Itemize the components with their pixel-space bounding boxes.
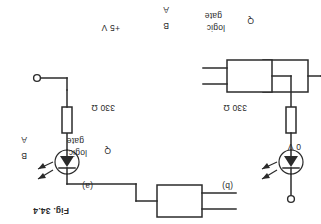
- led-light-arrowhead-2-a: [262, 163, 270, 169]
- resistor-value-label-a: 330 Ω: [91, 103, 115, 113]
- circuit-a-body: [203, 60, 303, 202]
- resistor-value-label-b: 330 Ω: [223, 103, 247, 113]
- gate-output-q-label-b: Q: [247, 16, 254, 26]
- gate-text-line1-a: logic: [69, 148, 87, 158]
- gate-input-b-label-a: B: [21, 151, 27, 161]
- resistor-body-a[interactable]: [286, 107, 296, 133]
- gate-input-b-label-b: B: [163, 21, 169, 31]
- circuit-a-drawing-layer: [0, 0, 321, 224]
- gate-input-a-label-b: A: [163, 5, 169, 15]
- supply-terminal-label-0v: 0 V: [288, 142, 301, 152]
- rotated-scan-canvas: Fig. 34.4 (a) (b) B A logic gate Q 330 Ω…: [0, 0, 321, 224]
- logic-gate-box-a2[interactable]: [227, 60, 272, 92]
- led-light-arrows-a: [262, 162, 277, 179]
- led-light-arrowhead-1-a: [262, 173, 270, 179]
- led-diode-triangle-a: [284, 156, 298, 167]
- supply-terminal-label-5v: +5 V: [101, 23, 120, 33]
- sublabel-circuit-b: (b): [222, 181, 233, 191]
- gate-output-q-label-a: Q: [104, 146, 111, 156]
- sublabel-circuit-a: (a): [82, 181, 93, 191]
- figure-caption: Fig. 34.4: [33, 206, 69, 216]
- terminal-5v[interactable]: [288, 196, 295, 203]
- gate-text-line2-b: gate: [205, 11, 222, 21]
- gate-text-line1-b: logic: [207, 23, 225, 33]
- figure-page: Fig. 34.4 (a) (b) B A logic gate Q 330 Ω…: [0, 0, 321, 224]
- gate-text-line2-a: gate: [67, 136, 84, 146]
- gate-input-a-label-a: A: [21, 135, 27, 145]
